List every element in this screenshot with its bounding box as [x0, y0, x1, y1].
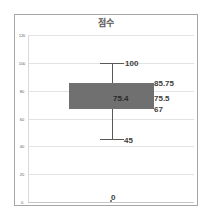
box-iqr: [69, 83, 154, 109]
label-min: 45: [124, 136, 133, 145]
y-tick-label: 60: [17, 117, 27, 122]
y-tick-label: 120: [17, 33, 27, 38]
x-axis-line: [28, 202, 194, 203]
gridline-120: [28, 35, 194, 36]
chart-title: 점수: [14, 16, 198, 29]
gridline-20: [28, 174, 194, 175]
label-q3: 85.75: [154, 79, 174, 88]
chart-frame: [14, 14, 198, 206]
whisker-cap-min: [100, 139, 124, 140]
y-tick-label: 100: [17, 61, 27, 66]
label-max: 100: [125, 59, 138, 68]
y-tick-label: 0: [17, 200, 27, 205]
y-tick-label: 20: [17, 172, 27, 177]
y-axis-line: [28, 35, 29, 202]
whisker-cap-max: [100, 63, 124, 64]
outlier-point: [110, 200, 112, 202]
label-mean: 75.4: [113, 94, 129, 103]
gridline-40: [28, 146, 194, 147]
label-q1: 67: [154, 105, 163, 114]
gridline-60: [28, 119, 194, 120]
label-median: 75.5: [154, 94, 170, 103]
y-tick-label: 40: [17, 144, 27, 149]
y-tick-label: 80: [17, 89, 27, 94]
